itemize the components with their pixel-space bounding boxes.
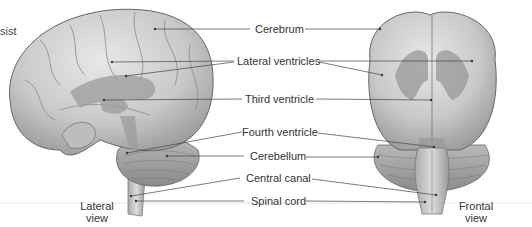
- frontal-view-line1: Frontal: [453, 200, 499, 212]
- label-spinal-cord: Spinal cord: [251, 195, 306, 207]
- label-cerebrum: Cerebrum: [255, 23, 304, 35]
- lateral-view-caption: Lateral view: [74, 200, 120, 224]
- label-lateral-ventricles: Lateral ventricles: [237, 55, 320, 67]
- lateral-view-line1: Lateral: [74, 200, 120, 212]
- label-fourth-ventricle: Fourth ventricle: [242, 126, 318, 138]
- frontal-brain: [369, 12, 496, 214]
- cropped-text-fragment: sist: [0, 25, 17, 37]
- label-third-ventricle: Third ventricle: [245, 93, 314, 105]
- label-central-canal: Central canal: [246, 172, 311, 184]
- lateral-view-line2: view: [74, 212, 120, 224]
- frontal-view-line2: view: [453, 212, 499, 224]
- frontal-view-caption: Frontal view: [453, 200, 499, 224]
- label-cerebellum: Cerebellum: [250, 150, 306, 162]
- lateral-brain: [10, 9, 214, 216]
